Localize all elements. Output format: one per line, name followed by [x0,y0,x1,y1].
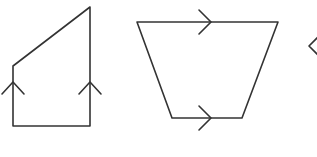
partial-shape [309,37,317,55]
isosceles-trapezoid-outline [137,22,278,118]
isosceles-trapezoid [137,10,278,130]
shapes-figure [0,0,317,157]
right-trapezoid-outline [13,7,90,126]
diagram-canvas: Three quadrilaterals with parallel-side … [0,0,317,157]
parallel-arrow-left-icon [309,37,317,55]
right-trapezoid [2,7,101,126]
